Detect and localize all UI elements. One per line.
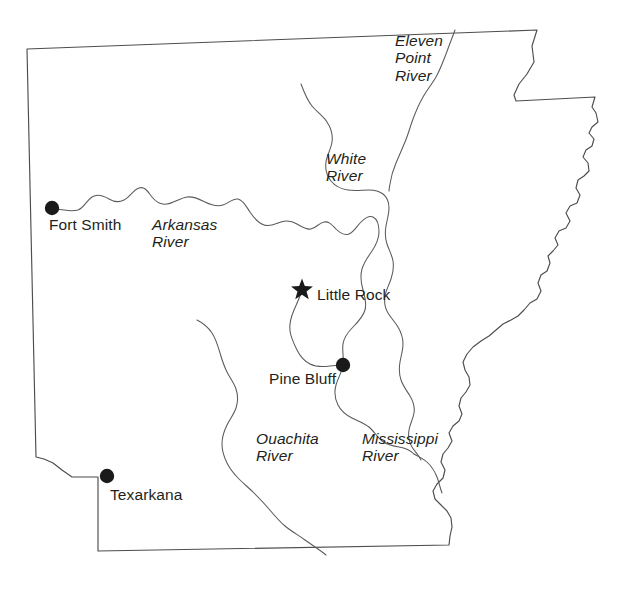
river-label-line: River xyxy=(362,447,438,464)
city-dot-marker-pine-bluff[interactable] xyxy=(336,358,350,372)
river-label-line: Mississippi xyxy=(362,430,438,447)
river-label-line: Eleven xyxy=(395,32,443,49)
arkansas-map-graphic xyxy=(0,0,629,592)
river-label-ouachita-river: OuachitaRiver xyxy=(256,430,319,465)
river-label-line: Point xyxy=(395,49,443,66)
river-label-line: Ouachita xyxy=(256,430,319,447)
city-dot-marker-fort-smith[interactable] xyxy=(45,201,59,215)
river-label-line: Arkansas xyxy=(152,216,217,233)
city-label-fort-smith: Fort Smith xyxy=(49,216,121,233)
river-label-line: River xyxy=(395,67,443,84)
city-label-little-rock: Little Rock xyxy=(317,286,390,303)
river-label-line: White xyxy=(326,150,366,167)
city-dot-marker-texarkana[interactable] xyxy=(100,469,114,483)
river-label-line: River xyxy=(152,233,217,250)
map-canvas: Fort SmithLittle RockPine BluffTexarkana… xyxy=(0,0,629,592)
river-label-line: River xyxy=(326,167,366,184)
river-label-line: River xyxy=(256,447,319,464)
river-label-arkansas-river: ArkansasRiver xyxy=(152,216,217,251)
city-label-pine-bluff: Pine Bluff xyxy=(269,370,336,387)
river-label-eleven-point-river: ElevenPointRiver xyxy=(395,32,443,84)
river-label-mississippi-river: MississippiRiver xyxy=(362,430,438,465)
river-label-white-river: WhiteRiver xyxy=(326,150,366,185)
city-label-texarkana: Texarkana xyxy=(110,486,182,503)
